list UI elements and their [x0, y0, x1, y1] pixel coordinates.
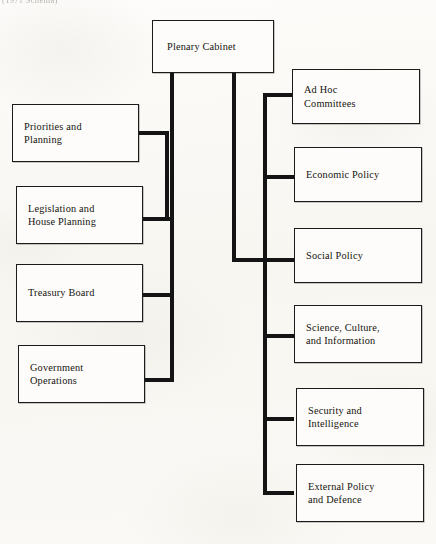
connector-priorities-and-planning-riser — [165, 131, 169, 221]
node-economic-policy-label: Economic Policy — [295, 168, 385, 181]
connector-right-trunk-jog — [232, 258, 267, 262]
connector-security-and-intelligence-stub — [263, 417, 294, 421]
node-legislation-and-house-planning-label: Legislation and House Planning — [17, 202, 102, 228]
node-legislation-and-house-planning[interactable]: Legislation and House Planning — [16, 186, 143, 244]
connector-treasury-board-stub — [138, 293, 174, 297]
node-social-policy-label: Social Policy — [295, 249, 369, 262]
cabinet-committee-org-chart: (1971 Schema) Plenary Cabinet Priorities… — [0, 0, 436, 544]
node-external-policy-and-defence[interactable]: External Policy and Defence — [296, 464, 424, 522]
connector-right-trunk — [232, 72, 236, 262]
connector-social-policy-stub — [263, 258, 294, 262]
node-plenary-cabinet[interactable]: Plenary Cabinet — [152, 20, 274, 73]
node-treasury-board[interactable]: Treasury Board — [16, 264, 143, 322]
clipped-caption-fragment: (1971 Schema) — [2, 0, 58, 5]
node-external-policy-and-defence-label: External Policy and Defence — [297, 480, 380, 506]
connector-right-spine — [263, 93, 267, 495]
connector-left-trunk — [170, 72, 174, 382]
node-priorities-and-planning[interactable]: Priorities and Planning — [12, 104, 139, 162]
node-security-and-intelligence-label: Security and Intelligence — [297, 404, 368, 430]
connector-economic-policy-stub — [263, 175, 294, 179]
connector-science-culture-and-information-stub — [263, 334, 294, 338]
node-social-policy[interactable]: Social Policy — [294, 228, 422, 283]
node-ad-hoc-committees[interactable]: Ad Hoc Committees — [292, 69, 420, 124]
node-treasury-board-label: Treasury Board — [17, 286, 101, 299]
node-government-operations[interactable]: Government Operations — [18, 345, 145, 403]
connector-external-policy-and-defence-stub — [263, 491, 294, 495]
node-government-operations-label: Government Operations — [19, 361, 89, 387]
connector-legislation-and-house-planning-stub — [138, 217, 174, 221]
node-science-culture-and-information-label: Science, Culture, and Information — [295, 321, 386, 347]
node-priorities-and-planning-label: Priorities and Planning — [13, 120, 88, 146]
node-plenary-cabinet-label: Plenary Cabinet — [153, 40, 242, 53]
connector-ad-hoc-committees-stub — [263, 93, 294, 97]
node-economic-policy[interactable]: Economic Policy — [294, 147, 422, 202]
node-ad-hoc-committees-label: Ad Hoc Committees — [293, 83, 362, 109]
node-science-culture-and-information[interactable]: Science, Culture, and Information — [294, 305, 422, 363]
node-security-and-intelligence[interactable]: Security and Intelligence — [296, 388, 424, 446]
